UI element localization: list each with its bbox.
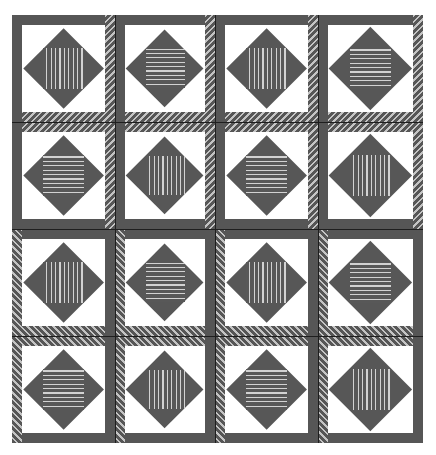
frame-right-band: [205, 15, 215, 122]
frame-left-band: [215, 15, 225, 122]
frame-bottom-band: [12, 219, 115, 229]
frame-top-band: [318, 122, 423, 132]
quilt-block: [215, 336, 318, 443]
row-divider: [12, 229, 423, 230]
quilt-block: [12, 336, 115, 443]
frame-left-band: [12, 229, 22, 336]
quilt-block: [318, 15, 423, 122]
striped-square-vertical: [246, 262, 287, 303]
frame-bottom-band: [318, 219, 423, 229]
frame-right-band: [205, 229, 215, 336]
striped-square-vertical: [350, 155, 392, 197]
quilt-block: [318, 229, 423, 336]
frame-top-band: [115, 229, 215, 239]
frame-right-band: [205, 336, 215, 443]
frame-left-band: [318, 122, 328, 229]
striped-square-horizontal: [146, 263, 185, 302]
frame-bottom-band: [12, 326, 115, 336]
frame-right-band: [308, 336, 318, 443]
row-divider: [12, 336, 423, 337]
striped-square-vertical: [350, 369, 392, 411]
quilt-block: [215, 15, 318, 122]
frame-right-band: [105, 122, 115, 229]
striped-square-horizontal: [246, 155, 287, 196]
frame-top-band: [215, 15, 318, 25]
frame-bottom-band: [318, 326, 423, 336]
frame-right-band: [413, 15, 423, 122]
striped-square-horizontal: [246, 369, 287, 410]
quilt-block: [12, 229, 115, 336]
row-divider: [12, 122, 423, 123]
frame-left-band: [12, 15, 22, 122]
frame-left-band: [215, 122, 225, 229]
frame-right-band: [105, 229, 115, 336]
frame-top-band: [12, 229, 115, 239]
frame-bottom-band: [115, 219, 215, 229]
frame-top-band: [215, 122, 318, 132]
frame-left-band: [12, 336, 22, 443]
quilt-block: [318, 336, 423, 443]
frame-right-band: [105, 336, 115, 443]
frame-top-band: [318, 336, 423, 346]
quilt-block: [115, 336, 215, 443]
frame-right-band: [308, 122, 318, 229]
striped-square-horizontal: [146, 49, 185, 88]
frame-top-band: [115, 122, 215, 132]
quilt-block: [12, 122, 115, 229]
frame-top-band: [12, 122, 115, 132]
striped-square-vertical: [146, 370, 185, 409]
striped-square-horizontal: [350, 262, 392, 304]
striped-square-vertical: [146, 156, 185, 195]
striped-square-horizontal: [350, 48, 392, 90]
frame-bottom-band: [215, 219, 318, 229]
frame-top-band: [115, 15, 215, 25]
frame-left-band: [318, 15, 328, 122]
frame-right-band: [413, 336, 423, 443]
frame-bottom-band: [115, 326, 215, 336]
striped-square-vertical: [43, 262, 84, 303]
frame-right-band: [413, 229, 423, 336]
frame-bottom-band: [215, 433, 318, 443]
frame-left-band: [115, 122, 125, 229]
quilt-grid: [12, 15, 423, 443]
frame-left-band: [115, 229, 125, 336]
striped-square-vertical: [43, 48, 84, 89]
frame-left-band: [215, 229, 225, 336]
frame-right-band: [308, 229, 318, 336]
frame-bottom-band: [115, 112, 215, 122]
quilt-block: [215, 229, 318, 336]
frame-right-band: [205, 122, 215, 229]
frame-bottom-band: [115, 433, 215, 443]
frame-bottom-band: [12, 433, 115, 443]
frame-top-band: [12, 15, 115, 25]
striped-square-vertical: [246, 48, 287, 89]
frame-top-band: [215, 229, 318, 239]
quilt-block: [215, 122, 318, 229]
frame-top-band: [215, 336, 318, 346]
frame-right-band: [413, 122, 423, 229]
frame-left-band: [215, 336, 225, 443]
quilt-block: [115, 15, 215, 122]
frame-bottom-band: [215, 326, 318, 336]
frame-bottom-band: [12, 112, 115, 122]
frame-left-band: [115, 336, 125, 443]
frame-bottom-band: [318, 433, 423, 443]
frame-top-band: [318, 229, 423, 239]
quilt-block: [12, 15, 115, 122]
quilt-block: [318, 122, 423, 229]
frame-right-band: [105, 15, 115, 122]
quilt-block: [115, 229, 215, 336]
frame-left-band: [12, 122, 22, 229]
quilt-block: [115, 122, 215, 229]
frame-top-band: [12, 336, 115, 346]
frame-left-band: [318, 336, 328, 443]
frame-left-band: [115, 15, 125, 122]
frame-bottom-band: [318, 112, 423, 122]
striped-square-horizontal: [43, 369, 84, 410]
striped-square-horizontal: [43, 155, 84, 196]
frame-right-band: [308, 15, 318, 122]
frame-bottom-band: [215, 112, 318, 122]
frame-left-band: [318, 229, 328, 336]
frame-top-band: [115, 336, 215, 346]
frame-top-band: [318, 15, 423, 25]
